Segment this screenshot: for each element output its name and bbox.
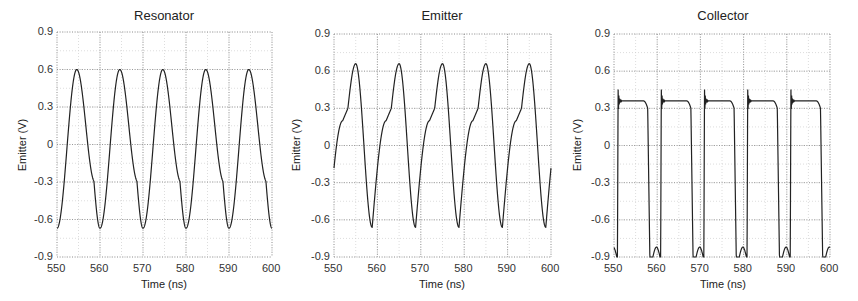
plot-area [0, 0, 858, 301]
y-tick-label: -0.6 [588, 213, 610, 225]
panel-collector: Collector Emitter (V) Time (ns) 55056057… [0, 0, 858, 301]
grid [614, 34, 830, 257]
x-tick-label: 580 [734, 262, 752, 274]
x-tick-label: 570 [690, 262, 708, 274]
x-tick-label: 600 [820, 262, 838, 274]
waveform-line [614, 90, 830, 258]
x-tick-label: 560 [647, 262, 665, 274]
y-tick-label: 0.6 [588, 64, 610, 76]
y-tick-label: -0.9 [588, 250, 610, 262]
y-tick-label: 0 [588, 139, 610, 151]
x-tick-label: 590 [777, 262, 795, 274]
y-tick-label: -0.3 [588, 176, 610, 188]
y-tick-label: 0.9 [588, 27, 610, 39]
y-tick-label: 0.3 [588, 101, 610, 113]
x-tick-label: 550 [604, 262, 622, 274]
